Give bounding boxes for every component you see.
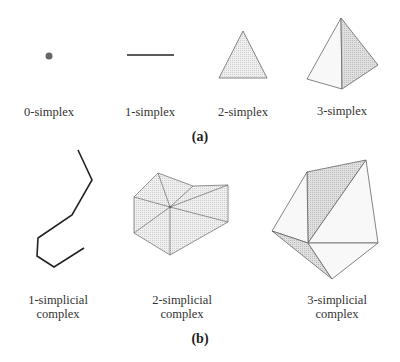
label-3-simplex: 3-simplex xyxy=(307,104,377,118)
three-simplex-tetrahedron xyxy=(307,18,378,89)
zero-simplex-point xyxy=(46,53,53,60)
label-0-simplex: 0-simplex xyxy=(14,105,84,119)
caption-b: (b) xyxy=(180,331,220,347)
label-3-simplicial-complex: 3-simplicial complex xyxy=(297,293,377,321)
label-line1: 3-simplicial xyxy=(297,293,377,307)
label-line2: complex xyxy=(142,307,222,321)
label-line1: 1-simplicial xyxy=(18,293,98,307)
label-2-simplex: 2-simplex xyxy=(208,105,278,119)
label-line2: complex xyxy=(297,307,377,321)
label-line2: complex xyxy=(18,307,98,321)
caption-a: (a) xyxy=(180,129,220,145)
three-simplicial-complex xyxy=(272,160,378,279)
two-simplicial-complex xyxy=(134,173,228,255)
one-simplicial-complex-polyline xyxy=(37,150,92,267)
label-2-simplicial-complex: 2-simplicial complex xyxy=(142,293,222,321)
two-simplex-triangle xyxy=(219,31,267,78)
label-1-simplicial-complex: 1-simplicial complex xyxy=(18,293,98,321)
label-line1: 2-simplicial xyxy=(142,293,222,307)
label-1-simplex: 1-simplex xyxy=(115,105,185,119)
